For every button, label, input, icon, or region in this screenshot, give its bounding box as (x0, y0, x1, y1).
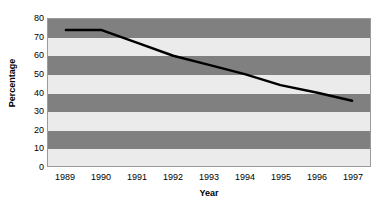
plot-area (47, 18, 371, 167)
x-axis-title: Year (47, 188, 371, 198)
x-axis-tick-labels: 198919901991199219931994199519961997 (47, 172, 371, 186)
line-chart: Percentage 80706050403020100 19891990199… (0, 0, 384, 216)
y-axis-tick-labels: 80706050403020100 (22, 0, 44, 216)
y-axis-tick-label: 50 (22, 69, 44, 78)
series-line (48, 19, 370, 166)
x-axis-tick-label: 1993 (189, 172, 229, 183)
x-axis-tick-label: 1995 (261, 172, 301, 183)
y-axis-tick-label: 10 (22, 144, 44, 153)
x-axis-tick-label: 1997 (333, 172, 373, 183)
y-axis-tick-label: 60 (22, 51, 44, 60)
y-axis-tick-label: 80 (22, 14, 44, 23)
x-axis-tick-label: 1992 (153, 172, 193, 183)
x-axis-tick-label: 1994 (225, 172, 265, 183)
y-axis-tick-label: 40 (22, 88, 44, 97)
y-axis-tick-label: 30 (22, 107, 44, 116)
y-axis-tick-label: 20 (22, 125, 44, 134)
x-axis-tick-label: 1990 (81, 172, 121, 183)
x-axis-tick-label: 1996 (297, 172, 337, 183)
x-axis-tick-label: 1991 (117, 172, 157, 183)
y-axis-tick-label: 0 (22, 163, 44, 172)
y-axis-tick-label: 70 (22, 32, 44, 41)
y-axis-title: Percentage (7, 43, 17, 123)
x-axis-tick-label: 1989 (45, 172, 85, 183)
